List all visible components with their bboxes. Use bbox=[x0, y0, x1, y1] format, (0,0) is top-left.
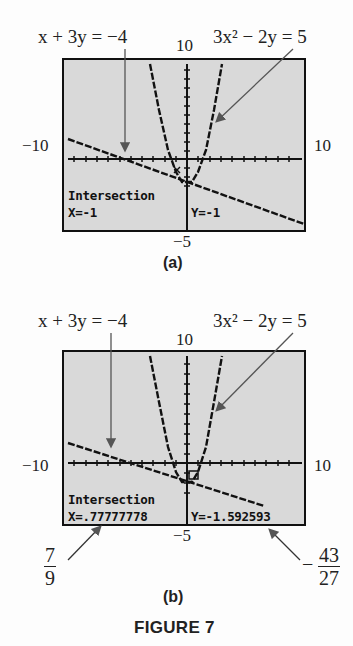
ymax-label-b: 10 bbox=[176, 330, 193, 350]
parabola-equation-label-b: 3x² − 2y = 5 bbox=[213, 310, 307, 332]
line-equation-label-b: x + 3y = −4 bbox=[38, 310, 127, 332]
y-fraction-sign: − bbox=[302, 553, 313, 576]
xmax-label-b: 10 bbox=[314, 456, 331, 476]
calculator-screen-b: Intersection X=.77777778 Y=-1.592593 bbox=[62, 350, 306, 526]
xmax-label-a: 10 bbox=[314, 136, 331, 156]
ymax-label-a: 10 bbox=[176, 36, 193, 56]
parabola-equation-label-a: 3x² − 2y = 5 bbox=[213, 26, 307, 48]
figure-caption: FIGURE 7 bbox=[134, 618, 215, 638]
panel-label-a: (a) bbox=[163, 254, 183, 272]
graph-plot-a bbox=[64, 60, 306, 232]
x-readout-a: X=-1 bbox=[68, 205, 97, 220]
ymin-label-b: −5 bbox=[173, 526, 191, 546]
ymin-label-a: −5 bbox=[173, 232, 191, 252]
arrow-to-y-readout-b bbox=[270, 530, 300, 560]
intersection-title-b: Intersection bbox=[68, 492, 155, 507]
xmin-label-b: −10 bbox=[22, 456, 49, 476]
calculator-screen-a: Intersection X=-1 Y=-1 bbox=[62, 58, 306, 232]
x-exact-fraction: 7 9 bbox=[44, 544, 56, 589]
arrow-to-x-readout-b bbox=[68, 527, 100, 560]
panel-label-b: (b) bbox=[163, 588, 183, 606]
line-equation-label-a: x + 3y = −4 bbox=[38, 26, 127, 48]
y-readout-b: Y=-1.592593 bbox=[191, 509, 270, 524]
xmin-label-a: −10 bbox=[22, 136, 49, 156]
y-readout-a: Y=-1 bbox=[191, 205, 220, 220]
x-readout-b: X=.77777778 bbox=[68, 509, 147, 524]
y-exact-fraction: 43 27 bbox=[318, 544, 340, 589]
intersection-title-a: Intersection bbox=[68, 188, 155, 203]
